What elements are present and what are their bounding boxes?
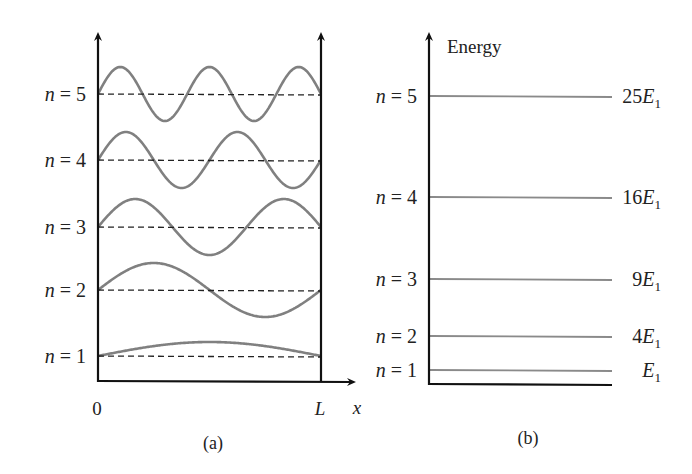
baseline-n5 xyxy=(98,94,321,95)
energy-baseline xyxy=(428,384,612,385)
state-label-n5: n = 5 xyxy=(45,83,86,105)
level-label-n3: n = 3 xyxy=(376,268,417,290)
energy-level-n5 xyxy=(430,96,612,97)
caption-a: (a) xyxy=(203,433,223,454)
state-label-n1: n = 1 xyxy=(45,345,86,367)
caption-b: (b) xyxy=(518,428,539,449)
panel-a-wavefunctions: n = 1n = 2n = 3n = 4n = 5 0 L x (a) xyxy=(45,36,362,454)
state-label-n2: n = 2 xyxy=(45,279,86,301)
panel-b-energy-levels: Energy n = 1E1n = 24E1n = 39E1n = 416E1n… xyxy=(376,36,661,449)
state-label-n3: n = 3 xyxy=(45,216,86,238)
level-label-n1: n = 1 xyxy=(376,359,417,381)
energy-value-n5: 25E1 xyxy=(622,85,661,111)
level-label-n5: n = 5 xyxy=(376,85,417,107)
baseline-n2 xyxy=(98,290,321,291)
energy-value-n1: E1 xyxy=(641,359,661,385)
energy-level-lines xyxy=(430,96,612,371)
energy-level-n1 xyxy=(430,370,612,371)
energy-level-n2 xyxy=(430,336,612,337)
x-axis-label: x xyxy=(352,397,362,418)
energy-axis-label: Energy xyxy=(447,36,502,57)
wavefunction-n1 xyxy=(98,342,321,356)
energy-value-n4: 16E1 xyxy=(622,186,661,212)
energy-level-n4 xyxy=(430,197,612,198)
level-label-n4: n = 4 xyxy=(376,186,417,208)
wavefunction-curves xyxy=(98,67,321,356)
energy-level-n3 xyxy=(430,279,612,280)
well-width-label: L xyxy=(314,398,326,419)
level-label-n2: n = 2 xyxy=(376,325,417,347)
energy-value-n3: 9E1 xyxy=(632,268,661,294)
baseline-n1 xyxy=(98,356,321,357)
x-axis-arrow xyxy=(97,381,352,382)
state-label-n4: n = 4 xyxy=(45,149,86,171)
state-labels: n = 1n = 2n = 3n = 4n = 5 xyxy=(45,83,86,367)
baseline-n4 xyxy=(98,160,321,161)
baseline-n3 xyxy=(98,227,321,228)
energy-value-n2: 4E1 xyxy=(632,325,661,351)
infinite-square-well-figure: n = 1n = 2n = 3n = 4n = 5 0 L x (a) Ener… xyxy=(0,0,692,474)
origin-label: 0 xyxy=(92,398,102,419)
level-labels: n = 1E1n = 24E1n = 39E1n = 416E1n = 525E… xyxy=(376,85,661,385)
